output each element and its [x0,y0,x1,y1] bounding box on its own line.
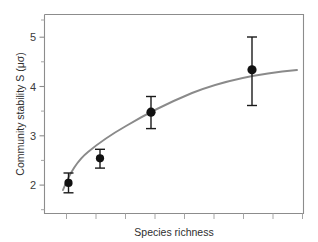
data-point-marker-3 [146,108,155,117]
y-tick-label-4: 4 [30,81,36,93]
chart-background [0,0,318,242]
scatter-plot-canvas: 5 4 3 2 [0,0,318,242]
data-point-marker-1 [64,179,72,187]
data-point-marker-4 [247,65,256,74]
x-axis-title: Species richness [134,226,213,238]
y-tick-label-5: 5 [30,31,36,43]
data-point-marker-2 [96,154,104,162]
y-axis-title: Community stability S (μσ) [14,52,26,175]
chart-figure: 5 4 3 2 [0,0,318,242]
y-tick-label-2: 2 [30,179,36,191]
y-tick-label-3: 3 [30,130,36,142]
